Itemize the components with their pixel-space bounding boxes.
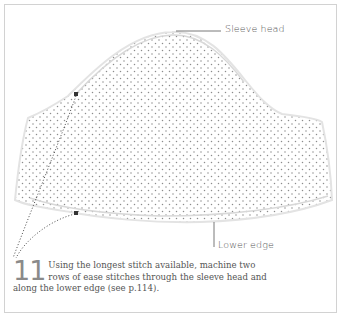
leader-line-lower-edge xyxy=(16,214,75,258)
step-text: Using the longest stitch available, mach… xyxy=(13,260,267,293)
sleeve-piece-shape xyxy=(15,32,332,222)
step-instruction: 11 Using the longest stitch available, m… xyxy=(13,260,273,295)
sleeve-head-label: Sleeve head xyxy=(225,23,285,34)
lower-edge-label: Lower edge xyxy=(218,239,274,250)
step-number: 11 xyxy=(13,260,45,282)
marker-dot-sleeve-head xyxy=(74,92,78,96)
